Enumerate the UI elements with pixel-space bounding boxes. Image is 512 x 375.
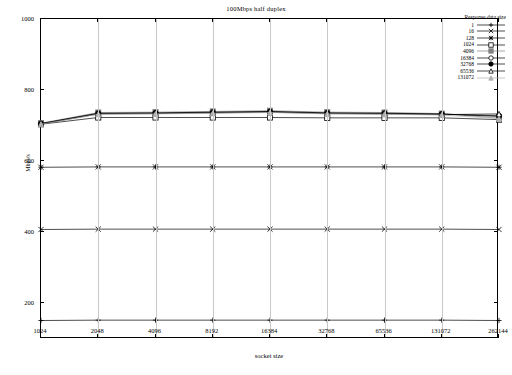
x-tick-label: 262144 <box>478 327 512 334</box>
y-tick-mark <box>494 231 498 232</box>
x-tick-mark <box>97 18 98 22</box>
x-tick-label: 32768 <box>306 327 346 334</box>
legend-item-label: 65536 <box>454 68 476 75</box>
x-tick-mark <box>40 334 41 338</box>
x-tick-mark <box>269 334 270 338</box>
y-tick-label: 400 <box>0 228 34 235</box>
legend-item-sample <box>476 22 506 28</box>
legend-item-128: 128 <box>454 35 506 42</box>
y-tick-mark <box>494 160 498 161</box>
y-tick-label: 800 <box>0 86 34 93</box>
y-tick-mark <box>494 302 498 303</box>
x-tick-mark <box>441 18 442 22</box>
legend-item-4096: 4096 <box>454 48 506 55</box>
legend-item-label: 1024 <box>454 41 476 48</box>
legend-item-sample <box>476 55 506 61</box>
x-tick-label: 16384 <box>249 327 289 334</box>
legend-item-label: 131072 <box>454 74 476 81</box>
x-tick-label: 4096 <box>135 327 175 334</box>
chart-container: 100Mbps half duplex Mbps/s socket size 2… <box>0 0 512 375</box>
grid-line <box>98 19 99 337</box>
x-tick-mark <box>97 334 98 338</box>
x-tick-label: 131072 <box>421 327 461 334</box>
y-tick-label: 200 <box>0 299 34 306</box>
x-tick-mark <box>326 334 327 338</box>
grid-line <box>270 19 271 337</box>
x-tick-mark <box>155 334 156 338</box>
legend-item-label: 16384 <box>454 55 476 62</box>
x-tick-mark <box>498 334 499 338</box>
y-tick-label: 1000 <box>0 15 34 22</box>
legend-item-sample <box>476 48 506 54</box>
legend-item-label: 16 <box>454 28 476 35</box>
y-tick-mark <box>40 160 44 161</box>
y-tick-label: 600 <box>0 157 34 164</box>
legend-item-16: 16 <box>454 28 506 35</box>
x-tick-mark <box>212 334 213 338</box>
legend-item-sample <box>476 28 506 34</box>
x-tick-label: 1024 <box>20 327 60 334</box>
grid-line <box>385 19 386 337</box>
x-tick-mark <box>212 18 213 22</box>
legend-item-sample <box>476 68 506 74</box>
x-tick-mark <box>155 18 156 22</box>
legend-rows: 11612810244096163843276865536131072 <box>454 22 506 81</box>
legend-item-label: 4096 <box>454 48 476 55</box>
x-tick-label: 8192 <box>192 327 232 334</box>
legend-item-32768: 32768 <box>454 61 506 68</box>
plot-area <box>40 18 498 338</box>
legend-item-label: 1 <box>454 22 476 29</box>
x-tick-label: 65536 <box>364 327 404 334</box>
x-tick-mark <box>384 18 385 22</box>
legend: Response data size 116128102440961638432… <box>454 14 506 81</box>
legend-item-sample <box>476 75 506 81</box>
legend-item-sample <box>476 35 506 41</box>
y-tick-mark <box>40 302 44 303</box>
grid-line <box>327 19 328 337</box>
legend-item-sample <box>476 42 506 48</box>
legend-item-131072: 131072 <box>454 74 506 81</box>
x-tick-mark <box>40 18 41 22</box>
legend-item-16384: 16384 <box>454 55 506 62</box>
x-tick-mark <box>269 18 270 22</box>
chart-title: 100Mbps half duplex <box>0 5 512 12</box>
grid-line <box>156 19 157 337</box>
y-tick-mark <box>40 89 44 90</box>
legend-item-1: 1 <box>454 22 506 29</box>
y-tick-mark <box>40 231 44 232</box>
x-tick-mark <box>326 18 327 22</box>
legend-item-label: 128 <box>454 35 476 42</box>
x-tick-mark <box>441 334 442 338</box>
legend-item-sample <box>476 61 506 67</box>
legend-title: Response data size <box>454 14 506 21</box>
legend-item-1024: 1024 <box>454 41 506 48</box>
x-axis-label: socket size <box>40 352 498 359</box>
grid-line <box>213 19 214 337</box>
grid-line <box>442 19 443 337</box>
x-tick-mark <box>384 334 385 338</box>
legend-item-label: 32768 <box>454 61 476 68</box>
y-tick-mark <box>494 89 498 90</box>
legend-item-65536: 65536 <box>454 68 506 75</box>
x-tick-label: 2048 <box>77 327 117 334</box>
